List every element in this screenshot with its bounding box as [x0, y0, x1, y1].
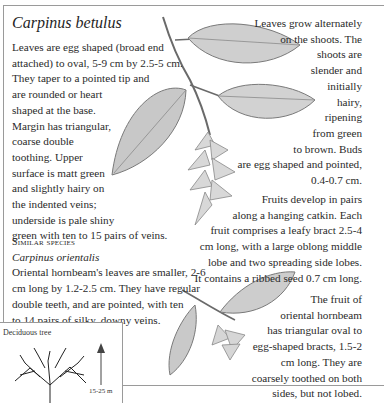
species-title: Carpinus betulus: [12, 14, 122, 32]
oriental-fruit-description: The fruit of oriental hornbeam has trian…: [252, 292, 362, 402]
similar-species-name: Carpinus orientalis: [12, 250, 206, 266]
shoots-description: Leaves grow alternately on the shoots. T…: [237, 16, 362, 189]
height-arrow-icon: [97, 343, 105, 385]
leaf-description: Leaves are egg shaped (broad end attache…: [12, 40, 183, 244]
tree-height-label: 15-25 m: [89, 387, 113, 395]
similar-species-heading: Similar species: [12, 234, 206, 250]
fruits-description: Fruits develop in pairs along a hanging …: [195, 192, 362, 286]
similar-species: Similar species Carpinus orientalis Orie…: [12, 234, 206, 328]
oriental-fruit-icon: [212, 325, 245, 360]
tree-inset: Deciduous tree 15-25 m: [0, 322, 123, 403]
